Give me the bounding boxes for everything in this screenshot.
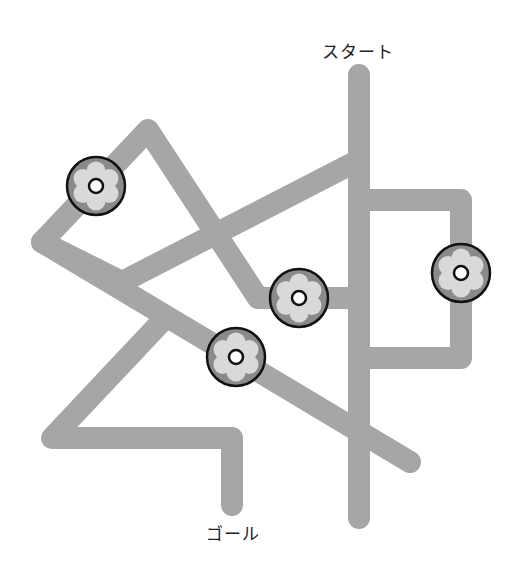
flower-2-icon — [270, 269, 328, 327]
start-label: スタート — [322, 38, 394, 63]
maze-diagram — [0, 0, 521, 568]
maze-paths — [42, 75, 461, 518]
goal-label: ゴール — [206, 520, 260, 545]
flower-1-icon — [67, 157, 125, 215]
flower-3-icon — [207, 328, 265, 386]
flower-4-icon — [432, 244, 490, 302]
